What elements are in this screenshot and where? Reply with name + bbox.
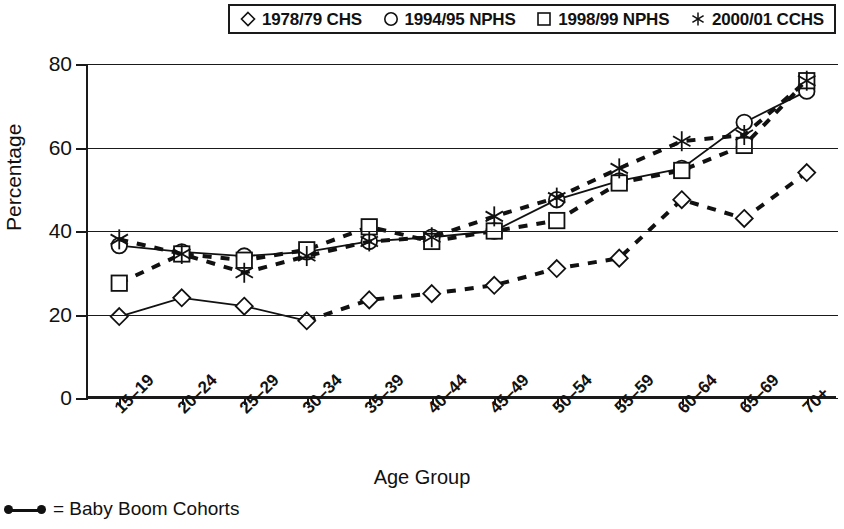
footnote: = Baby Boom Cohorts [4,498,239,520]
chart-legend: 1978/79 CHS 1994/95 NPHS 1998/99 NPHS 20… [228,4,836,34]
y-axis-tick-label: 20 [49,303,72,327]
data-point-diamond [423,285,440,302]
y-axis-tick [76,148,88,150]
y-axis-tick-label: 60 [49,136,72,160]
chart-page: 1978/79 CHS 1994/95 NPHS 1998/99 NPHS 20… [0,0,844,529]
y-axis-tick [76,315,88,317]
square-icon [536,11,552,27]
legend-label-0: 1978/79 CHS [262,11,362,28]
legend-entry-3: 2000/01 CCHS [690,11,824,28]
series-asterisk [111,71,816,283]
circle-icon [383,11,399,27]
legend-entry-2: 1998/99 NPHS [536,11,669,28]
gridline [88,148,838,149]
data-point-diamond [173,289,190,306]
data-point-square [674,163,689,178]
series-square [112,73,815,291]
data-point-diamond [798,164,815,181]
gridline [88,231,838,232]
baby-boom-line-icon [4,503,46,515]
x-axis-title: Age Group [0,466,844,489]
legend-label-1: 1994/95 NPHS [405,11,516,28]
data-point-diamond [361,291,378,308]
y-axis-title: Percentage [2,124,26,231]
series-circle [111,83,814,264]
legend-entry-1: 1994/95 NPHS [383,11,516,28]
data-point-diamond [736,210,753,227]
data-point-diamond [236,298,253,315]
diamond-icon [240,11,256,27]
legend-entry-0: 1978/79 CHS [240,11,362,28]
gridline [88,315,838,316]
y-axis-tick-label: 0 [60,386,72,410]
plot-area: 02040608015–1920–2425–2930–3435–3940–444… [86,64,836,398]
footnote-text: = Baby Boom Cohorts [53,498,239,520]
y-axis-tick [76,398,88,400]
legend-label-3: 2000/01 CCHS [712,11,824,28]
y-axis-tick [76,64,88,66]
gridline [88,64,838,65]
data-point-diamond [486,277,503,294]
y-axis-tick-label: 40 [49,219,72,243]
series-diamond [111,164,816,329]
data-point-square [549,213,564,228]
y-axis-tick-label: 80 [49,52,72,76]
data-point-diamond [111,308,128,325]
data-point-square [112,275,127,290]
y-axis-tick [76,231,88,233]
asterisk-icon [690,11,706,27]
data-point-diamond [548,260,565,277]
legend-label-2: 1998/99 NPHS [558,11,669,28]
